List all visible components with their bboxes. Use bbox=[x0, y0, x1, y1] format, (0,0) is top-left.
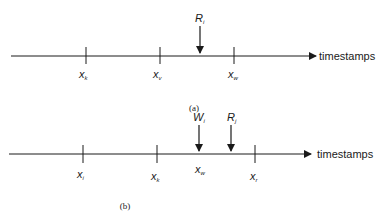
tick-label-a-2: xw bbox=[227, 68, 239, 81]
axis-label-b: timestamps bbox=[317, 148, 374, 160]
tick-label-b-0: xi bbox=[76, 168, 85, 181]
axis-label-a: timestamps bbox=[319, 50, 376, 62]
timestamp-diagram: timestamps xk xv xw Ri (a) timestamps xi… bbox=[0, 0, 378, 222]
write-arrow-label-b: Wi bbox=[193, 111, 205, 124]
read-arrow-label-a: Ri bbox=[195, 12, 205, 25]
tick-label-b-2: xr bbox=[249, 170, 259, 183]
write-position-label-b: xw bbox=[194, 163, 206, 176]
caption-b: (b) bbox=[120, 201, 131, 211]
panel-b: timestamps xi xk xr xw Wi Rj (b) bbox=[9, 111, 374, 211]
panel-a: timestamps xk xv xw Ri (a) bbox=[11, 12, 376, 113]
read-arrow-label-b: Rj bbox=[227, 111, 237, 124]
tick-label-a-1: xv bbox=[152, 68, 163, 81]
tick-label-a-0: xk bbox=[78, 68, 89, 81]
tick-label-b-1: xk bbox=[150, 170, 161, 183]
